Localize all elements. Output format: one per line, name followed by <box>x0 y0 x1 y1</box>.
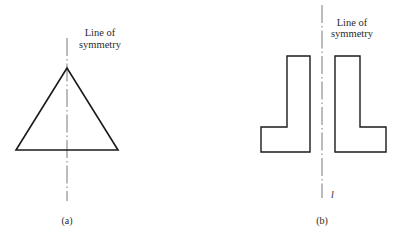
caption-a: (a) <box>61 215 72 227</box>
caption-b: (b) <box>316 215 328 227</box>
panel-a: Line of symmetry (a) <box>16 27 122 227</box>
right-l-shape <box>335 56 386 152</box>
axis-label-b-line2: symmetry <box>331 28 374 39</box>
axis-name-l: l <box>331 189 334 200</box>
panel-b: Line of symmetry l (b) <box>261 5 386 227</box>
axis-label-b-line1: Line of <box>337 17 368 28</box>
axis-label-a-line1: Line of <box>85 27 116 38</box>
left-l-shape <box>261 56 310 152</box>
symmetry-diagram: Line of symmetry (a) Line of symmetry l … <box>0 0 398 236</box>
axis-label-a-line2: symmetry <box>79 39 122 50</box>
